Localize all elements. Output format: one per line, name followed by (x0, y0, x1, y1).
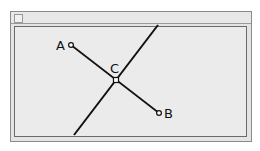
label-b: B (164, 106, 173, 121)
diagram: A B C (0, 0, 260, 151)
point-a-handle[interactable] (69, 43, 74, 48)
label-c: C (110, 61, 119, 76)
point-c-midpoint[interactable] (114, 78, 119, 83)
label-a: A (56, 38, 65, 53)
point-b-handle[interactable] (157, 111, 162, 116)
